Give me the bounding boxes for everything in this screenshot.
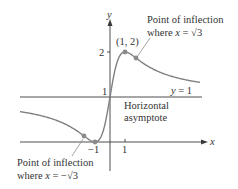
local-max-label: (1, 2): [116, 36, 139, 48]
asymptote-equation: y = 1: [170, 85, 192, 96]
point-local-max: [123, 50, 128, 55]
asymptote-label-line2: asymptote: [124, 112, 167, 123]
upper-annotation-line1: Point of inflection: [147, 14, 224, 25]
x-axis-label: x: [209, 136, 215, 147]
y-axis-label: y: [106, 9, 112, 20]
lower-annotation-line1: Point of inflection: [17, 157, 94, 168]
function-graph: y x 2 1 −1 1 (1, 2) y = 1 Horizontal asy…: [0, 0, 238, 189]
x-tick-label-1: 1: [122, 144, 127, 155]
lower-annotation-line2: where x = −√3: [17, 170, 78, 181]
y-tick-label-2: 2: [99, 47, 104, 58]
x-tick-label-neg1: −1: [88, 144, 99, 155]
asymptote-label-line1: Horizontal: [124, 100, 169, 111]
upper-annotation-line2: where x = √3: [147, 27, 202, 38]
y-axis-arrow-icon: [108, 19, 113, 26]
y-tick-label-1: 1: [102, 86, 107, 97]
x-axis-arrow-icon: [201, 140, 208, 145]
point-inflection-positive: [134, 56, 139, 61]
upper-leader-line: [137, 38, 150, 57]
point-inflection-negative: [82, 134, 87, 139]
